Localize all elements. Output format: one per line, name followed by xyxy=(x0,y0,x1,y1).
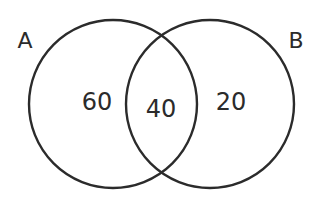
venn-diagram: A B 60 40 20 xyxy=(0,0,314,201)
region-a-only-value: 60 xyxy=(82,88,113,116)
region-intersection-value: 40 xyxy=(146,95,177,123)
set-b-label: B xyxy=(288,28,303,53)
region-b-only-value: 20 xyxy=(216,88,247,116)
set-a-label: A xyxy=(17,28,32,53)
